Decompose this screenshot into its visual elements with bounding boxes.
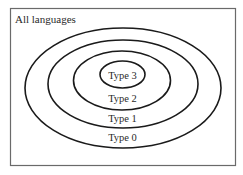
type2-label: Type 2 [108,93,137,104]
type3-label: Type 3 [108,70,137,81]
all-languages-label: All languages [15,13,76,25]
chomsky-hierarchy-diagram: All languages Type 3 Type 2 Type 1 Type … [0,0,243,175]
type0-label: Type 0 [108,132,137,143]
type1-label: Type 1 [108,113,137,124]
